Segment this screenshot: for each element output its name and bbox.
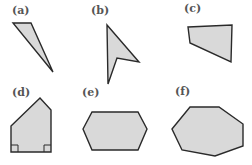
panel-label-c: (c) <box>184 2 201 15</box>
polygon-figure: (a) (b) (c) (d) (e) (f) <box>0 0 252 165</box>
panel-label-f: (f) <box>175 85 190 98</box>
panel-b: (b) <box>91 4 139 84</box>
panel-label-b: (b) <box>91 4 109 17</box>
hexagon-shape <box>83 112 147 150</box>
panel-label-e: (e) <box>82 86 99 99</box>
quadrilateral-shape <box>188 25 232 62</box>
heptagon-shape <box>172 107 243 156</box>
panel-label-a: (a) <box>12 4 30 17</box>
panel-d: (d) <box>11 86 51 152</box>
panel-label-d: (d) <box>12 86 30 99</box>
panel-f: (f) <box>172 85 243 156</box>
triangle-shape <box>13 23 53 72</box>
concave-quadrilateral-shape <box>107 25 139 84</box>
pentagon-shape <box>11 98 51 152</box>
panel-c: (c) <box>184 2 232 62</box>
panel-a: (a) <box>12 4 53 72</box>
panel-e: (e) <box>82 86 147 150</box>
